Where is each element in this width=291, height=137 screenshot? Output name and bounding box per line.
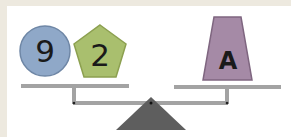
pentagon-weight: 2 — [74, 25, 126, 77]
pentagon-label: 2 — [90, 37, 110, 73]
left-joint — [73, 102, 76, 105]
left-pan — [21, 84, 129, 88]
balance-scale: 9 2 A — [0, 0, 291, 137]
circle-weight: 9 — [20, 26, 70, 76]
circle-label: 9 — [35, 33, 55, 69]
right-pan — [174, 85, 281, 89]
fulcrum-pivot — [150, 102, 153, 105]
trapezoid-label: A — [219, 47, 238, 75]
right-joint — [226, 102, 229, 105]
trapezoid-weight: A — [203, 17, 252, 80]
